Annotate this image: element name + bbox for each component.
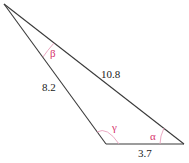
side-left (4, 4, 106, 144)
angle-label-gamma: γ (111, 121, 117, 133)
angle-arc-alpha (160, 128, 164, 144)
side-hypotenuse (4, 4, 184, 144)
side-label-left: 8.2 (42, 81, 56, 93)
triangle-diagram: β γ α 8.2 10.8 3.7 (0, 0, 189, 163)
angle-label-beta: β (50, 47, 56, 59)
side-label-bottom: 3.7 (138, 147, 152, 159)
angle-label-alpha: α (150, 130, 156, 142)
side-label-hypotenuse: 10.8 (101, 68, 121, 80)
